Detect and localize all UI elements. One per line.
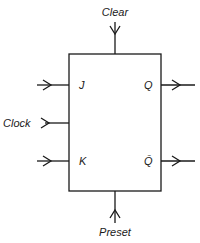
preset-label: Preset [99,226,132,238]
clock-input [41,118,69,128]
j-label: J [78,79,85,91]
q-output [161,80,195,90]
clear-input [110,22,120,54]
k-label: K [79,155,87,167]
k-input [37,156,69,166]
q-label: Q [144,79,153,91]
preset-input [110,191,120,223]
clock-label: Clock [3,117,31,129]
clear-label: Clear [102,6,130,18]
q-bar-label: Q̄ [144,155,153,167]
j-input [37,80,69,90]
flip-flop-block [69,54,161,191]
q-bar-output [161,156,195,166]
jk-flip-flop-diagram: Clear J Clock K Q Q̄ Preset [0,0,200,243]
